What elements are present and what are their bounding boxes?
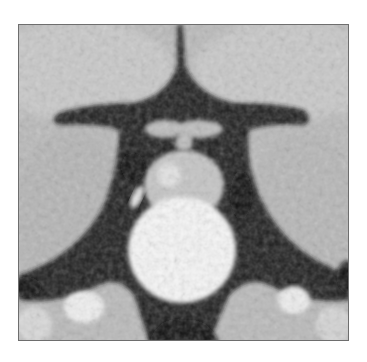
mri-image: [18, 24, 349, 341]
mri-scan-graphic: [19, 25, 349, 341]
